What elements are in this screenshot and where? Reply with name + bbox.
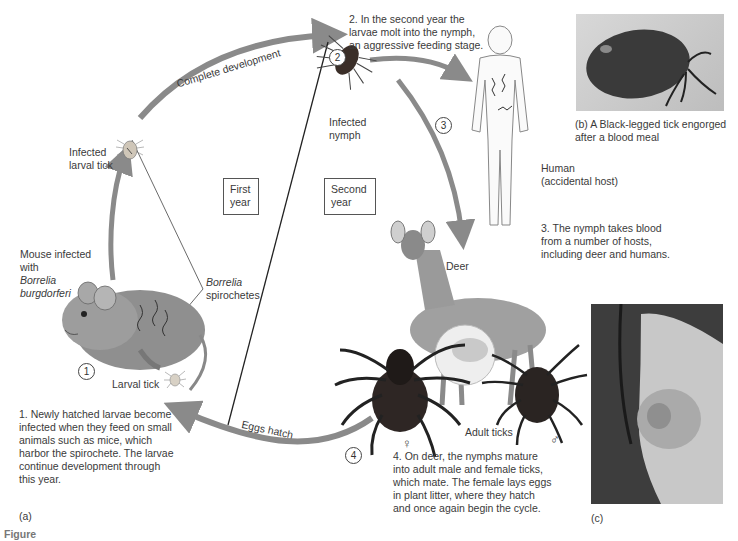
infected-larval-tick-label-line1: Infected	[69, 146, 106, 159]
second-year-line1: Second	[331, 183, 369, 196]
male-symbol: ♂	[550, 433, 560, 446]
step-number-3: 3	[435, 117, 452, 134]
panel-b-caption-line1: (b) A Black-legged tick engorged	[575, 118, 726, 131]
deer-label: Deer	[446, 260, 469, 273]
female-symbol: ♀	[402, 437, 412, 450]
panel-a-label: (a)	[19, 510, 32, 523]
step3-text-line1: 3. The nymph takes blood	[541, 222, 662, 235]
figure-caption-cut: Figure	[4, 528, 36, 541]
mouse-infected-line2: with	[20, 261, 39, 274]
first-year-box: First year	[223, 178, 259, 215]
step3-text-line3: including deer and humans.	[541, 248, 670, 261]
adult-ticks-label: Adult ticks	[465, 426, 513, 439]
human-figure	[472, 26, 528, 225]
step4-text-line5: and once again begin the cycle.	[393, 502, 541, 515]
borrelia-label: Borrelia	[206, 276, 242, 289]
step1-text-line2: infected when they feed on small	[19, 421, 172, 434]
step1-text-line1: 1. Newly hatched larvae become	[19, 408, 171, 421]
year-divider-line	[228, 42, 328, 425]
step2-text-line1: 2. In the second year the	[349, 13, 465, 26]
arrow-nymph-to-human	[370, 58, 460, 74]
engorged-tick-photo	[576, 14, 724, 111]
arrow-mouse-to-infected-larva	[111, 158, 124, 280]
panel-c-label: (c)	[591, 512, 603, 525]
infected-nymph-label-line1: Infected	[329, 116, 366, 129]
first-year-line1: First	[230, 183, 252, 196]
step3-text-line2: from a number of hosts,	[541, 235, 652, 248]
step1-text-line5: continue development through	[19, 460, 160, 473]
infected-nymph-label-line2: nymph	[329, 129, 361, 142]
step-number-2: 2	[329, 49, 346, 66]
panel-b-caption-line2: after a blood meal	[575, 131, 659, 144]
first-year-line2: year	[230, 196, 252, 209]
step-number-4: 4	[345, 447, 362, 464]
step4-text-line4: in plant litter, where they hatch	[393, 489, 535, 502]
step4-text-line1: 4. On deer, the nymphs mature	[393, 450, 538, 463]
infected-larval-tick-label-line2: larval tick	[69, 159, 113, 172]
step4-text-line2: into adult male and female ticks,	[393, 463, 543, 476]
rash-photo	[591, 304, 723, 504]
step-number-1: 1	[78, 363, 95, 380]
step1-text-line3: animals such as mice, which	[19, 434, 152, 447]
egg-mass	[435, 325, 495, 385]
second-year-box: Second year	[324, 178, 376, 215]
larval-tick-label: Larval tick	[112, 378, 159, 391]
arrow-nymph-to-deer	[398, 80, 462, 235]
step4-text-line3: which mate. The female lays eggs	[393, 476, 552, 489]
step1-text-line6: this year.	[19, 473, 61, 486]
step2-text-line2: larvae molt into the nymph,	[349, 26, 475, 39]
borrelia-genus: Borrelia	[20, 274, 56, 287]
larval-tick	[164, 371, 186, 388]
human-label-line1: Human	[541, 162, 575, 175]
step1-text-line4: harbor the spirochete. The larvae	[19, 447, 173, 460]
mouse-infected-line1: Mouse infected	[20, 248, 91, 261]
spirochetes-label: spirochetes	[206, 289, 260, 302]
arrow-complete-development	[140, 35, 330, 118]
burgdorferi-species: burgdorferi	[20, 287, 71, 300]
second-year-line2: year	[331, 196, 369, 209]
step2-text-line3: an aggressive feeding stage.	[349, 39, 483, 52]
human-label-line2: (accidental host)	[541, 175, 618, 188]
